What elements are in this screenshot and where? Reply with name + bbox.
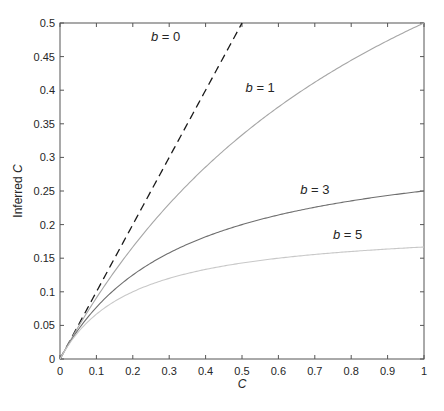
y-tick-label: 0.1 [40, 286, 55, 298]
x-axis-label: C [238, 377, 247, 391]
y-tick-label: 0.15 [34, 252, 55, 264]
curve-label: b = 5 [333, 227, 362, 242]
x-tick-label: 0.2 [125, 365, 140, 377]
x-tick-label: 0.9 [380, 365, 395, 377]
x-tick-label: 0.1 [89, 365, 104, 377]
y-tick-label: 0.05 [34, 319, 55, 331]
line-chart: 00.10.20.30.40.50.60.70.80.9100.050.10.1… [0, 0, 444, 411]
x-tick-label: 0.6 [271, 365, 286, 377]
y-tick-label: 0 [49, 353, 55, 365]
plot-area [60, 23, 424, 359]
y-tick-label: 0.3 [40, 151, 55, 163]
x-tick-label: 0.4 [198, 365, 213, 377]
x-tick-label: 0.8 [344, 365, 359, 377]
curve-label: b = 0 [151, 29, 180, 44]
y-tick-label: 0.45 [34, 51, 55, 63]
x-tick-label: 0.5 [234, 365, 249, 377]
x-tick-label: 1 [421, 365, 427, 377]
y-tick-label: 0.25 [34, 185, 55, 197]
y-tick-label: 0.4 [40, 84, 55, 96]
curve-label: b = 3 [300, 182, 329, 197]
x-tick-label: 0 [57, 365, 63, 377]
y-tick-label: 0.5 [40, 17, 55, 29]
y-tick-label: 0.2 [40, 219, 55, 231]
y-axis-label: Inferred C [11, 164, 25, 218]
curve-label: b = 1 [246, 80, 275, 95]
x-tick-label: 0.3 [162, 365, 177, 377]
y-tick-label: 0.35 [34, 118, 55, 130]
x-tick-label: 0.7 [307, 365, 322, 377]
